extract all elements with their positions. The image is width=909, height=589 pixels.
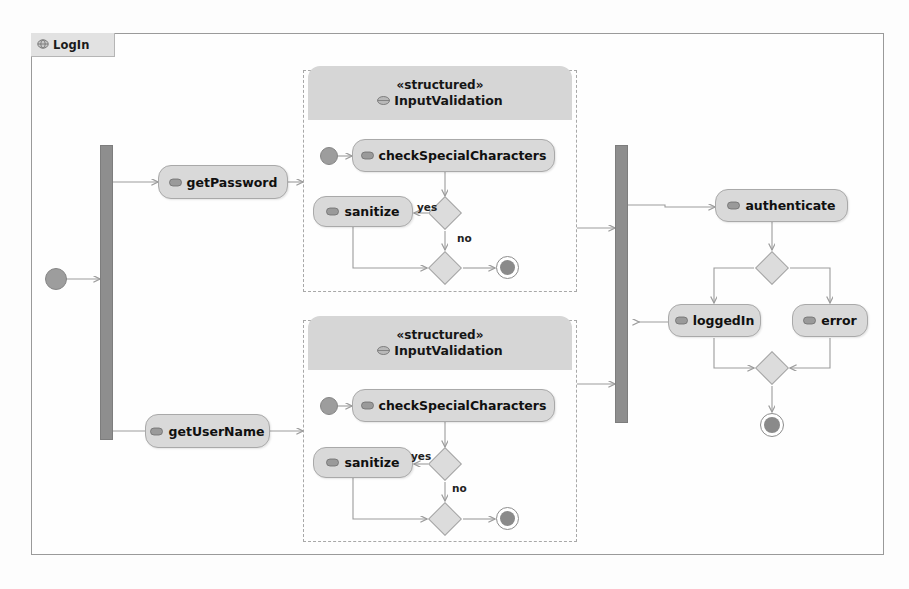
structured-node-name: InputValidation xyxy=(394,343,503,359)
action-icon xyxy=(361,401,374,410)
initial-node-top-validation[interactable] xyxy=(320,147,338,165)
action-sanitize-bottom[interactable]: sanitize xyxy=(313,447,413,478)
action-label: checkSpecialCharacters xyxy=(379,398,547,413)
edge-label-yes-bottom: yes xyxy=(411,450,431,462)
action-label: loggedIn xyxy=(693,313,755,328)
action-icon xyxy=(803,316,816,325)
activity-diagram-canvas: LogIn xyxy=(0,0,909,589)
edge-label-no-bottom: no xyxy=(452,482,467,494)
action-icon xyxy=(675,316,688,325)
activity-final-node-top-validation[interactable] xyxy=(496,256,519,279)
action-logged-in[interactable]: loggedIn xyxy=(668,304,761,337)
activity-final-node-main[interactable] xyxy=(760,413,784,437)
edge-label-yes-top: yes xyxy=(417,201,437,213)
action-error[interactable]: error xyxy=(792,304,868,337)
activity-icon xyxy=(377,346,390,355)
action-label: getUserName xyxy=(168,424,264,439)
action-label: getPassword xyxy=(187,175,278,190)
stereotype-label: «structured» xyxy=(397,78,484,93)
action-check-special-characters-bottom[interactable]: checkSpecialCharacters xyxy=(352,389,555,422)
fork-bar[interactable] xyxy=(100,145,113,440)
action-sanitize-top[interactable]: sanitize xyxy=(313,196,413,227)
action-icon xyxy=(169,178,182,187)
activity-package-icon xyxy=(37,39,49,50)
action-label: error xyxy=(821,313,857,328)
diagram-title-label: LogIn xyxy=(53,38,89,52)
structured-node-name-row: InputValidation xyxy=(377,93,503,109)
diagram-frame-title: LogIn xyxy=(31,33,115,57)
action-get-password[interactable]: getPassword xyxy=(158,165,288,199)
join-bar[interactable] xyxy=(615,145,628,423)
activity-final-node-bottom-validation[interactable] xyxy=(496,507,519,530)
structured-node-name: InputValidation xyxy=(394,93,503,109)
stereotype-label: «structured» xyxy=(397,328,484,343)
action-icon xyxy=(727,201,740,210)
structured-node-name-row: InputValidation xyxy=(377,343,503,359)
action-authenticate[interactable]: authenticate xyxy=(715,189,848,222)
initial-node-main[interactable] xyxy=(45,268,67,290)
action-label: checkSpecialCharacters xyxy=(379,148,547,163)
initial-node-bottom-validation[interactable] xyxy=(320,397,338,415)
action-icon xyxy=(361,151,374,160)
action-label: sanitize xyxy=(344,455,399,470)
action-icon xyxy=(150,427,163,436)
action-label: sanitize xyxy=(344,204,399,219)
structured-node-header-bottom: «structured» InputValidation xyxy=(308,316,572,370)
action-label: authenticate xyxy=(745,198,835,213)
structured-node-header-top: «structured» InputValidation xyxy=(308,66,572,120)
action-get-username[interactable]: getUserName xyxy=(145,414,270,448)
action-check-special-characters-top[interactable]: checkSpecialCharacters xyxy=(352,139,555,172)
action-icon xyxy=(326,458,339,467)
activity-icon xyxy=(377,96,390,105)
action-icon xyxy=(326,207,339,216)
edge-label-no-top: no xyxy=(457,232,472,244)
